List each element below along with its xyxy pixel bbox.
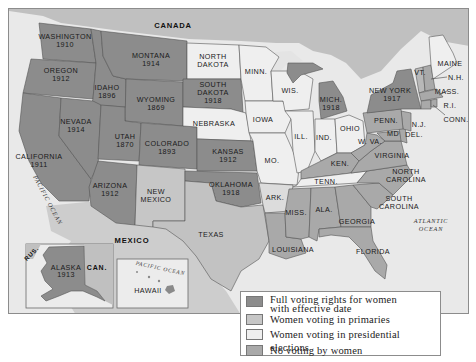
label-arizona-year: 1912 [101, 189, 119, 198]
us-suffrage-map: CANADA MEXICO PACIFIC OCEAN ATLANTIC OCE… [9, 9, 469, 314]
legend-item-presidential: Women voting in presidential elections [246, 328, 440, 344]
label-west-virginia: W. VA. [358, 137, 382, 146]
label-nebraska: NEBRASKA [193, 119, 235, 128]
legend: Full voting rights for women with effect… [240, 291, 441, 356]
hawaii-inset: PACIFIC OCEAN HAWAII [117, 259, 188, 308]
label-michigan-year: 1918 [322, 103, 340, 112]
label-new-hampshire: N.H. [448, 73, 464, 82]
label-mexico: MEXICO [115, 236, 150, 245]
label-south-carolina-2: CAROLINA [379, 202, 419, 211]
label-north-dakota-2: DAKOTA [197, 60, 228, 69]
label-virginia: VIRGINIA [375, 151, 410, 160]
label-atlantic-ocean-line2: OCEAN [419, 225, 443, 232]
label-massachusetts: MASS. [435, 87, 459, 96]
label-oregon-year: 1912 [52, 74, 70, 83]
label-new-york-year: 1917 [383, 94, 401, 103]
label-delaware: DEL. [405, 130, 423, 139]
label-maryland: MD [387, 129, 399, 138]
label-new-mexico-2: MEXICO [141, 195, 172, 204]
label-canada: CANADA [154, 21, 192, 30]
label-hawaii: HAWAII [134, 286, 161, 295]
label-florida: FLORIDA [356, 247, 390, 256]
label-california-year: 1911 [30, 160, 47, 169]
label-missouri: MO. [265, 156, 280, 165]
map-frame: CANADA MEXICO PACIFIC OCEAN ATLANTIC OCE… [8, 8, 469, 314]
label-colorado-year: 1893 [158, 147, 176, 156]
label-rhode-island: R.I. [444, 101, 457, 110]
label-alaska-year: 1913 [57, 270, 75, 279]
label-nevada-year: 1914 [67, 125, 85, 134]
label-connecticut: CONN. [443, 115, 468, 124]
label-alabama: ALA. [315, 205, 332, 214]
label-ohio: OHIO [340, 124, 360, 133]
label-wisconsin: WIS. [281, 86, 298, 95]
label-atlantic-ocean-line1: ATLANTIC [413, 217, 448, 224]
label-texas: TEXAS [198, 230, 224, 239]
legend-item-full-voting: Full voting rights for women with effect… [246, 295, 440, 311]
swatch-primaries [246, 314, 263, 325]
label-montana-year: 1914 [142, 59, 160, 68]
label-illinois: ILL. [294, 132, 308, 141]
label-arkansas: ARK. [266, 193, 284, 202]
label-maine: MAINE [438, 59, 463, 68]
label-iowa: IOWA [253, 115, 274, 124]
label-south-dakota-year: 1918 [204, 96, 222, 105]
label-georgia: GEORGIA [339, 217, 375, 226]
label-kentucky: KEN. [331, 159, 349, 168]
label-pennsylvania: PENN. [374, 116, 398, 125]
label-vermont: VT. [414, 68, 426, 77]
label-oklahoma-year: 1918 [222, 188, 240, 197]
label-tennessee: TENN. [314, 177, 338, 186]
legend-label-primaries: Women voting in primaries [270, 313, 390, 326]
legend-label-no-voting: No voting by women [270, 344, 363, 357]
label-minnesota: MINN. [245, 67, 267, 76]
label-utah-year: 1870 [116, 140, 134, 149]
label-wyoming-year: 1869 [147, 103, 165, 112]
label-louisiana: LOUISIANA [272, 245, 314, 254]
swatch-presidential [246, 329, 263, 340]
label-mississippi: MISS. [285, 208, 307, 217]
legend-item-primaries: Women voting in primaries [246, 313, 440, 329]
state-connecticut[interactable] [421, 100, 431, 109]
label-washington-year: 1910 [56, 40, 74, 49]
label-new-jersey: N.J. [412, 120, 426, 129]
hawaii-island-2 [148, 276, 150, 278]
label-kansas-year: 1912 [219, 155, 237, 164]
hawaii-island-3 [158, 280, 160, 282]
label-can: CAN. [87, 264, 107, 271]
label-north-carolina-2: CAROLINA [386, 175, 426, 184]
swatch-full-voting [246, 296, 263, 307]
swatch-no-voting [246, 345, 263, 356]
alaska-inset: RUS. ALASKA 1913 CAN. [23, 244, 113, 308]
hawaii-island-1 [136, 271, 138, 273]
label-indiana: IND. [316, 133, 332, 142]
label-idaho-year: 1896 [98, 91, 116, 100]
